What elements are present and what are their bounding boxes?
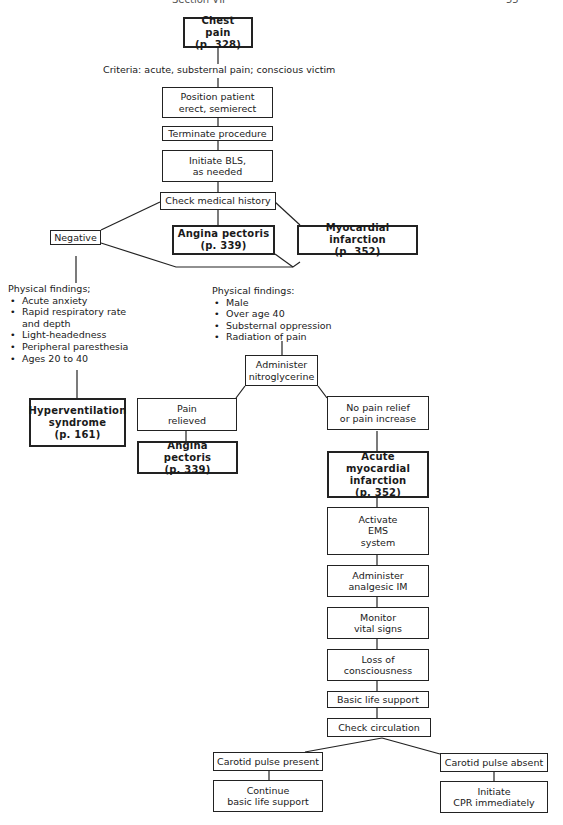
node-terminate-procedure: Terminate procedure	[162, 126, 273, 141]
physical-findings-right: Physical findings: MaleOver age 40Subste…	[212, 285, 332, 343]
finding-item: Radiation of pain	[212, 331, 332, 343]
node-angina-pectoris: Angina pectoris (p. 339)	[172, 225, 275, 255]
node-check-medical-history: Check medical history	[160, 192, 276, 210]
node-chest-pain: Chest pain (p. 328)	[183, 17, 253, 48]
node-position-patient: Position patient erect, semierect	[162, 87, 273, 118]
finding-item: Substernal oppression	[212, 320, 332, 332]
connector	[305, 738, 382, 752]
node-administer-nitroglycerine: Administer nitroglycerine	[245, 355, 318, 386]
criteria-label: Criteria: acute, substernal pain; consci…	[103, 64, 335, 76]
node-administer-analgesic: Administer analgesic IM	[327, 565, 429, 597]
node-check-circulation: Check circulation	[327, 718, 431, 737]
node-hyperventilation-syndrome: Hyperventilation syndrome (p. 161)	[29, 398, 126, 447]
node-carotid-pulse-absent: Carotid pulse absent	[440, 753, 548, 772]
findings-title: Physical findings:	[212, 285, 332, 297]
finding-item: Light-headedness	[8, 329, 128, 341]
finding-item: Ages 20 to 40	[8, 353, 128, 365]
node-activate-ems: Activate EMS system	[327, 507, 429, 555]
node-carotid-pulse-present: Carotid pulse present	[213, 752, 323, 771]
finding-item: Male	[212, 297, 332, 309]
node-pain-relieved: Pain relieved	[137, 398, 237, 431]
node-acute-myocardial-infarction: Acute myocardial infarction (p. 352)	[327, 451, 429, 498]
connector	[101, 202, 160, 230]
node-initiate-bls: Initiate BLS, as needed	[162, 150, 273, 182]
connector	[275, 254, 293, 267]
node-initiate-cpr: Initiate CPR immediately	[440, 781, 548, 813]
connector	[275, 202, 300, 225]
connector	[318, 386, 327, 398]
node-no-pain-relief: No pain relief or pain increase	[327, 396, 429, 430]
connector	[236, 386, 245, 398]
finding-item: Peripheral paresthesia	[8, 341, 128, 353]
node-myocardial-infarction: Myocardial infarction (p. 352)	[297, 225, 418, 255]
findings-title: Physical findings;	[8, 283, 128, 295]
node-monitor-vital-signs: Monitor vital signs	[327, 607, 429, 639]
connector	[382, 738, 440, 754]
node-angina-pectoris-2: Angina pectoris (p. 339)	[137, 441, 238, 474]
finding-item: Acute anxiety	[8, 295, 128, 307]
node-loss-of-consciousness: Loss of consciousness	[327, 649, 429, 681]
node-negative: Negative	[50, 230, 101, 245]
finding-item: Over age 40	[212, 308, 332, 320]
physical-findings-left: Physical findings; Acute anxietyRapid re…	[8, 283, 128, 364]
node-continue-bls: Continue basic life support	[213, 780, 323, 812]
finding-item: Rapid respiratory rate and depth	[8, 306, 128, 329]
node-basic-life-support: Basic life support	[327, 691, 429, 708]
